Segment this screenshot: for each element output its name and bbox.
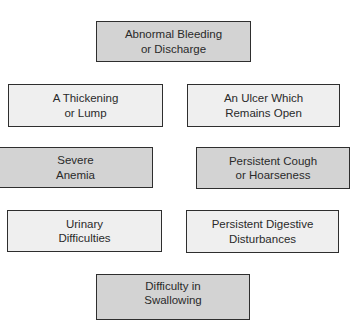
box-label-line-1: An Ulcer Which — [224, 91, 303, 106]
box-label-line-2: or Discharge — [141, 42, 206, 57]
box-ulcer-open: An Ulcer Which Remains Open — [187, 84, 340, 127]
box-label-line-2: Disturbances — [229, 232, 296, 247]
box-label-line-2: Difficulties — [58, 231, 110, 246]
box-label-line-2: Remains Open — [225, 106, 302, 121]
box-urinary: Urinary Difficulties — [7, 210, 162, 252]
box-label-line-1: A Thickening — [53, 91, 119, 106]
box-label-line-1: Severe — [57, 153, 93, 168]
box-label-line-2: Swallowing — [144, 293, 202, 308]
box-label-line-1: Persistent Digestive — [212, 217, 314, 232]
box-label-line-2: or Lump — [64, 106, 106, 121]
box-thickening-lump: A Thickening or Lump — [8, 84, 163, 127]
box-label-line-1: Abnormal Bleeding — [125, 27, 222, 42]
box-label-line-2: Anemia — [56, 168, 95, 183]
box-digestive: Persistent Digestive Disturbances — [186, 210, 339, 253]
box-abnormal-bleeding: Abnormal Bleeding or Discharge — [96, 21, 251, 62]
box-persistent-cough: Persistent Cough or Hoarseness — [196, 147, 350, 189]
box-label-line-1: Urinary — [66, 217, 103, 232]
box-swallowing: Difficulty in Swallowing — [96, 274, 250, 320]
box-severe-anemia: Severe Anemia — [0, 147, 153, 188]
box-label-line-1: Persistent Cough — [229, 154, 317, 169]
box-label-line-1: Difficulty in — [145, 279, 200, 294]
box-label-line-2: or Hoarseness — [236, 168, 311, 183]
